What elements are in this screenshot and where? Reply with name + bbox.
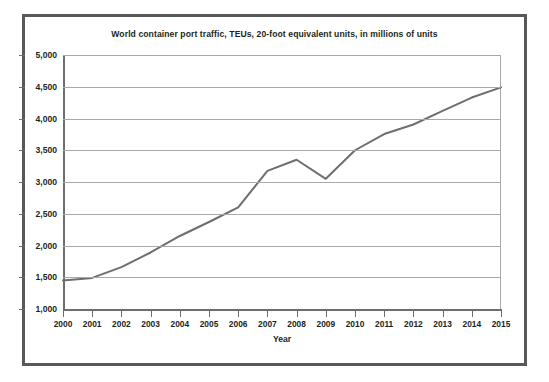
gridline bbox=[63, 246, 501, 247]
x-axis-tick-label: 2004 bbox=[170, 319, 189, 329]
gridline bbox=[63, 214, 501, 215]
y-axis-tick-mark bbox=[19, 246, 25, 247]
series-line bbox=[63, 87, 501, 280]
y-axis-tick-mark bbox=[19, 214, 25, 215]
x-axis-tick-mark bbox=[501, 311, 502, 317]
x-axis-tick-label: 2006 bbox=[229, 319, 248, 329]
y-axis-tick-mark bbox=[19, 119, 25, 120]
x-axis-tick-label: 2008 bbox=[287, 319, 306, 329]
gridline bbox=[63, 87, 501, 88]
y-axis-tick-labels: 1,0001,5002,0002,5003,0003,5004,0004,500… bbox=[25, 55, 57, 309]
x-axis-tick-label: 2007 bbox=[258, 319, 277, 329]
x-axis-title: Year bbox=[63, 334, 501, 344]
x-axis-tick-label: 2013 bbox=[433, 319, 452, 329]
plot-area bbox=[63, 55, 501, 309]
gridline bbox=[63, 182, 501, 183]
x-axis-tick-mark bbox=[413, 311, 414, 317]
gridline bbox=[63, 277, 501, 278]
x-axis-tick-mark bbox=[384, 311, 385, 317]
gridline bbox=[63, 55, 501, 56]
x-axis-tick-label: 2001 bbox=[83, 319, 102, 329]
x-axis-tick-label: 2000 bbox=[54, 319, 73, 329]
x-axis-tick-mark bbox=[472, 311, 473, 317]
x-axis-tick-label: 2003 bbox=[141, 319, 160, 329]
x-axis-tick-label: 2005 bbox=[200, 319, 219, 329]
x-axis-tick-mark bbox=[180, 311, 181, 317]
x-axis-tick-label: 2014 bbox=[462, 319, 481, 329]
y-axis-tick-mark bbox=[19, 150, 25, 151]
x-axis-tick-mark bbox=[267, 311, 268, 317]
x-axis-tick-label: 2012 bbox=[404, 319, 423, 329]
x-axis-tick-labels: 2000200120022003200420052006200720082009… bbox=[63, 319, 501, 333]
x-axis-tick-mark bbox=[121, 311, 122, 317]
x-axis-tick-marks bbox=[63, 311, 501, 317]
x-axis-tick-mark bbox=[238, 311, 239, 317]
y-axis-tick-mark bbox=[19, 309, 25, 310]
x-axis-tick-label: 2015 bbox=[492, 319, 511, 329]
x-axis-tick-label: 2010 bbox=[346, 319, 365, 329]
chart-figure: World container port traffic, TEUs, 20-f… bbox=[22, 14, 527, 366]
x-axis-tick-mark bbox=[92, 311, 93, 317]
y-axis-tick-mark bbox=[19, 87, 25, 88]
x-axis-tick-mark bbox=[297, 311, 298, 317]
x-axis-tick-mark bbox=[209, 311, 210, 317]
y-axis-tick-mark bbox=[19, 55, 25, 56]
x-axis-tick-label: 2009 bbox=[316, 319, 335, 329]
gridline bbox=[63, 119, 501, 120]
x-axis-tick-label: 2002 bbox=[112, 319, 131, 329]
x-axis-tick-mark bbox=[326, 311, 327, 317]
y-axis-tick-mark bbox=[19, 277, 25, 278]
chart-title: World container port traffic, TEUs, 20-f… bbox=[25, 29, 524, 39]
y-axis-tick-mark bbox=[19, 182, 25, 183]
x-axis-tick-mark bbox=[443, 311, 444, 317]
gridline bbox=[63, 150, 501, 151]
x-axis-tick-mark bbox=[63, 311, 64, 317]
x-axis-tick-mark bbox=[151, 311, 152, 317]
x-axis-tick-label: 2011 bbox=[375, 319, 393, 329]
x-axis-tick-mark bbox=[355, 311, 356, 317]
